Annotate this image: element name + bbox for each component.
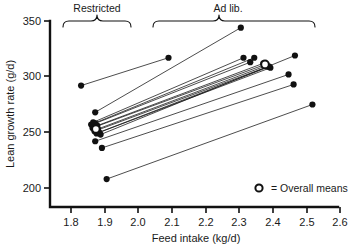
data-point <box>78 82 84 88</box>
y-axis-title: Lean growth rate (g/d) <box>4 60 16 168</box>
data-point <box>238 25 244 31</box>
x-tick-label-2-2: 2.2 <box>198 216 213 228</box>
pair-connector-line <box>93 58 243 123</box>
y-tick-label-300: 300 <box>23 70 41 82</box>
data-points <box>78 25 316 183</box>
x-tick-label-2-5: 2.5 <box>299 216 314 228</box>
overall-mean-point <box>92 125 100 133</box>
data-point <box>309 101 315 107</box>
data-point <box>251 55 257 61</box>
x-tick-label-2-4: 2.4 <box>265 216 280 228</box>
data-point <box>104 176 110 182</box>
pair-connector-line <box>98 66 267 129</box>
x-tick-label-2-3: 2.3 <box>231 216 246 228</box>
pair-connector-line <box>107 105 313 180</box>
data-point <box>292 52 298 58</box>
legend-open-circle-icon <box>255 184 262 191</box>
overall-mean-point <box>261 61 269 69</box>
data-point <box>92 109 98 115</box>
data-point <box>165 55 171 61</box>
x-tick-label-1-8: 1.8 <box>63 216 78 228</box>
x-tick-label-2-0: 2.0 <box>130 216 145 228</box>
data-point <box>92 138 98 144</box>
y-tick-label-250: 250 <box>23 126 41 138</box>
pair-connector-lines <box>81 28 312 179</box>
data-point <box>240 55 246 61</box>
chart-figure: Restricted Ad lib. 350 300 250 200 <box>0 0 352 246</box>
pair-connector-line <box>95 28 241 113</box>
scatter-plot-svg: Restricted Ad lib. 350 300 250 200 <box>0 0 352 246</box>
pair-connector-line <box>81 58 168 86</box>
data-point <box>290 81 296 87</box>
x-tick-label-2-6: 2.6 <box>332 216 347 228</box>
group-bracket-restricted <box>63 15 131 27</box>
x-axis-title: Feed intake (kg/d) <box>152 232 241 244</box>
group-label-adlib: Ad lib. <box>213 2 242 14</box>
data-point <box>99 145 105 151</box>
pair-connector-line <box>95 74 288 141</box>
data-point <box>285 71 291 77</box>
group-bracket-adlib <box>153 15 315 27</box>
group-label-restricted: Restricted <box>73 2 120 14</box>
x-tick-label-1-9: 1.9 <box>97 216 112 228</box>
x-tick-label-2-1: 2.1 <box>164 216 179 228</box>
legend: = Overall means <box>255 182 347 194</box>
y-tick-label-200: 200 <box>23 182 41 194</box>
y-tick-label-350: 350 <box>23 15 41 27</box>
legend-label-overall-means: = Overall means <box>271 182 348 194</box>
